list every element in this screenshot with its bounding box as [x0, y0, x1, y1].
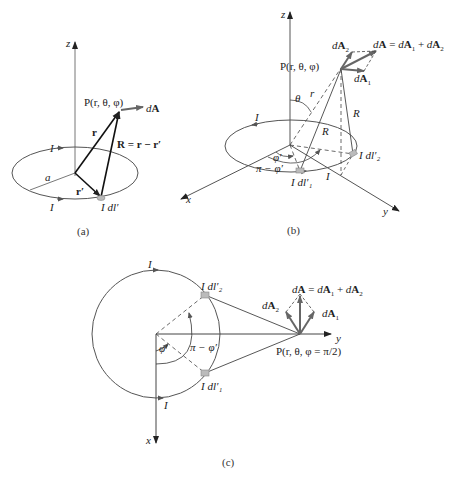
r-label: r	[310, 87, 315, 99]
caption-b: (b)	[287, 224, 300, 237]
sum-label: dA = dA1 + dA2	[373, 38, 444, 53]
panel-a: z I I a r r′ R = r − r′ I dl′ P(r, θ, φ)…	[12, 37, 161, 238]
current-label-top: I	[254, 111, 260, 123]
vector-R-label: R = r − r′	[117, 138, 161, 150]
element-1-label: I dl′₁	[290, 176, 312, 188]
phi-prime-label: φ′	[159, 342, 168, 354]
radius-label: a	[45, 171, 51, 183]
current-label-bottom: I	[49, 201, 55, 213]
R-label-left: R	[321, 125, 329, 137]
vector-r-prime-label: r′	[76, 185, 84, 197]
pi-minus-phi-label: π − φ′	[190, 341, 218, 353]
dA2-label: dA2	[262, 299, 279, 314]
x-axis-label: x	[185, 193, 191, 205]
panel-c: I I x y φ′ π − φ′ I dl′₂ I dl′₁ dA2 dA1 …	[92, 258, 363, 469]
dA-label: dA	[146, 102, 160, 114]
element-2-label: I dl′₂	[358, 149, 380, 161]
current-label-bottom: I	[163, 399, 169, 411]
caption-a: (a)	[77, 225, 90, 238]
x-axis-label: x	[145, 434, 151, 446]
caption-c: (c)	[222, 456, 235, 469]
point-label: P(r, θ, φ = π/2)	[276, 345, 341, 358]
element-2-label: I dl′₂	[200, 280, 222, 292]
current-label-bottom: I	[325, 170, 331, 182]
current-element-1	[296, 168, 304, 173]
current-element-1	[201, 370, 209, 376]
dA2-label: dA2	[332, 39, 349, 54]
dA1-label: dA1	[354, 72, 371, 87]
theta-label: θ	[295, 92, 301, 104]
element-1-label: I dl′₁	[200, 380, 222, 392]
dA1-label: dA1	[322, 307, 339, 322]
current-element	[97, 196, 105, 201]
R-label-right: R	[352, 107, 360, 119]
vector-r-label: r	[92, 126, 97, 138]
current-element-2	[201, 292, 209, 298]
point-label: P(r, θ, φ)	[280, 60, 320, 73]
element-label: I dl′	[100, 201, 119, 213]
z-axis-label: z	[65, 37, 71, 49]
point-label: P(r, θ, φ)	[84, 96, 124, 109]
y-axis-label: y	[382, 205, 388, 217]
pi-minus-phi-label: π − φ′	[256, 162, 284, 174]
current-label-top: I	[147, 258, 153, 270]
z-axis-label: z	[280, 8, 286, 20]
vector-dA	[121, 107, 143, 110]
panel-b: z x y I I R R r θ φ′ π − φ′ I dl′₁ I	[181, 8, 444, 237]
y-axis-label: y	[335, 332, 341, 344]
sum-label: dA = dA1 + dA2	[292, 283, 363, 298]
